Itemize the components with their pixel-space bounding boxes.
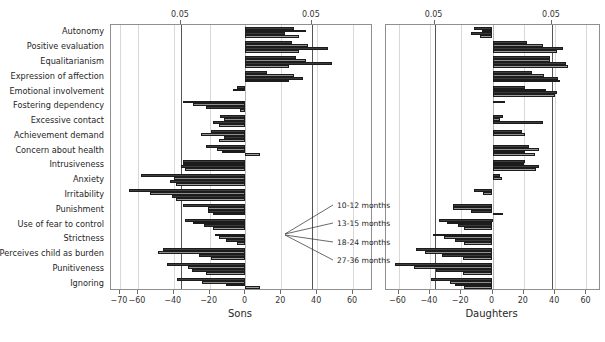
x-tick-mark (119, 290, 120, 294)
bar-group (386, 188, 599, 203)
bar-group (386, 40, 599, 55)
x-tick-label: 20 (518, 296, 528, 305)
x-tick-mark (280, 290, 281, 294)
x-tick-mark (460, 290, 461, 294)
x-tick-label: −70 (111, 296, 128, 305)
bar (185, 168, 246, 171)
bar-group (111, 173, 371, 188)
y-axis-label: Intrusiveness (49, 157, 104, 171)
significance-threshold-label: 0.05 (171, 10, 189, 19)
bar-group (111, 158, 371, 173)
bar (245, 153, 259, 156)
bar-group (111, 276, 371, 290)
x-tick-mark (554, 290, 555, 294)
bar-group (111, 69, 371, 84)
y-axis-label: Autonomy (62, 24, 104, 38)
bar (237, 242, 246, 245)
x-tick-label: 0 (242, 296, 247, 305)
bar-group (386, 84, 599, 99)
bar (240, 109, 245, 112)
bar (206, 272, 245, 275)
top-tick-mark (551, 20, 552, 24)
bar-group (111, 217, 371, 232)
bar (483, 192, 492, 195)
y-axis-label: Achievement demand (14, 128, 104, 142)
x-tick-mark (585, 290, 586, 294)
bar-group (386, 143, 599, 158)
x-tick-mark (492, 290, 493, 294)
bar-group (111, 25, 371, 40)
bar-group (111, 261, 371, 276)
x-axis-ticks-daughters: −60−40−200204060 (385, 292, 598, 304)
bar (493, 80, 560, 83)
bar-group (111, 114, 371, 129)
bar (245, 50, 299, 53)
bar (464, 242, 492, 245)
significance-threshold-label: 0.05 (302, 10, 320, 19)
significance-threshold-label: 0.05 (542, 10, 560, 19)
x-tick-mark (398, 290, 399, 294)
y-axis-label: Anxiety (73, 172, 104, 186)
bar (211, 257, 245, 260)
y-axis-label: Perceives child as burden (0, 246, 104, 260)
bar (471, 210, 493, 213)
y-axis-label: Punitiveness (52, 261, 104, 275)
bar-group (386, 114, 599, 129)
x-axis-ticks-sons: −70−60−40−200204060 (110, 292, 370, 304)
x-tick-label: −60 (128, 296, 145, 305)
bar-group (386, 232, 599, 247)
x-tick-label: 40 (549, 296, 559, 305)
bar (245, 286, 259, 289)
bar (463, 272, 493, 275)
bar-group (111, 128, 371, 143)
bar (493, 65, 568, 68)
y-axis-label: Equalitarianism (40, 54, 104, 68)
bar-group (386, 217, 599, 232)
plot-area-daughters (386, 25, 599, 289)
bar-group (386, 261, 599, 276)
bar (493, 168, 537, 171)
top-tick-mark (180, 20, 181, 24)
bar-group (386, 25, 599, 40)
bar (493, 101, 506, 104)
bar-group (111, 188, 371, 203)
bar (493, 153, 535, 156)
y-axis-label: Use of fear to control (17, 217, 104, 231)
x-tick-mark (137, 290, 138, 294)
x-tick-mark (429, 290, 430, 294)
x-tick-label: 20 (275, 296, 285, 305)
x-tick-label: −20 (452, 296, 469, 305)
bar (493, 50, 557, 53)
x-tick-label: −60 (389, 296, 406, 305)
x-tick-label: 40 (311, 296, 321, 305)
bar-group (111, 55, 371, 70)
bar-group (386, 55, 599, 70)
bar (464, 227, 492, 230)
x-tick-label: 60 (580, 296, 590, 305)
y-axis-label: Excessive contact (31, 113, 104, 127)
x-axis-title-sons: Sons (228, 308, 252, 319)
bar-group (386, 247, 599, 262)
significance-threshold-label: 0.05 (425, 10, 443, 19)
bar-group (111, 143, 371, 158)
y-axis-label: Punishment (56, 202, 104, 216)
top-axis-sons: 0.050.05 (110, 10, 370, 22)
bar (219, 139, 246, 142)
bar-group (386, 276, 599, 290)
bar (493, 133, 526, 136)
bar (213, 227, 245, 230)
panel-sons (110, 24, 372, 290)
bar (245, 65, 288, 68)
bar (463, 257, 493, 260)
bar-group (111, 84, 371, 99)
x-axis-title-daughters: Daughters (465, 308, 517, 319)
x-tick-mark (523, 290, 524, 294)
bar (464, 286, 492, 289)
top-tick-mark (311, 20, 312, 24)
x-tick-mark (209, 290, 210, 294)
bar (222, 151, 245, 154)
panel-daughters (385, 24, 600, 290)
y-axis-label: Positive evaluation (27, 39, 104, 53)
y-axis-label: Concern about health (15, 143, 104, 157)
y-axis-label: Fostering dependency (13, 98, 104, 112)
